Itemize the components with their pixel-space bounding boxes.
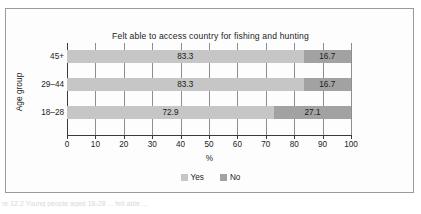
x-tick-label: 0 [52,140,82,149]
bar-value-label: 16.7 [304,78,351,91]
bar-segment-yes: 72.9 [67,106,274,119]
legend-label: Yes [191,173,204,182]
chart-legend: YesNo [6,173,415,182]
bar-segment-yes: 83.3 [67,78,304,91]
x-tick-mark [67,135,68,139]
x-tick-label: 70 [251,140,281,149]
bar-value-label: 83.3 [67,50,304,63]
x-tick-mark [152,135,153,139]
bar-row: 83.316.7 [67,50,351,63]
x-tick-label: 100 [336,140,366,149]
figure-frame: Felt able to access country for fishing … [5,8,414,193]
category-label-2: 18–28 [20,108,64,117]
x-tick-label: 30 [137,140,167,149]
bar-segment-no: 16.7 [304,50,351,63]
x-tick-label: 20 [109,140,139,149]
x-tick-mark [124,135,125,139]
figure-caption: re 12.2 Young people aged 18-28 ... felt… [2,200,302,207]
chart-title: Felt able to access country for fishing … [6,31,415,41]
bar-segment-yes: 83.3 [67,50,304,63]
legend-item-yes: Yes [181,173,204,182]
bar-value-label: 16.7 [304,50,351,63]
x-tick-mark [323,135,324,139]
x-tick-mark [181,135,182,139]
x-tick-label: 50 [194,140,224,149]
category-label-0: 45+ [20,52,64,61]
x-tick-label: 60 [222,140,252,149]
x-tick-mark [351,135,352,139]
legend-swatch-no [220,174,227,181]
x-tick-mark [266,135,267,139]
x-tick-label: 40 [166,140,196,149]
x-tick-mark [209,135,210,139]
plot-area: 83.316.783.316.772.927.1 [67,47,351,131]
bar-value-label: 72.9 [67,106,274,119]
bar-segment-no: 27.1 [274,106,351,119]
x-tick-label: 90 [308,140,338,149]
legend-swatch-yes [181,174,188,181]
legend-label: No [230,173,240,182]
x-tick-mark [237,135,238,139]
bar-row: 83.316.7 [67,78,351,91]
bar-row: 72.927.1 [67,106,351,119]
bar-value-label: 27.1 [274,106,351,119]
x-tick-label: 80 [279,140,309,149]
x-tick-mark [294,135,295,139]
x-axis-title: % [67,154,352,163]
bar-segment-no: 16.7 [304,78,351,91]
legend-item-no: No [220,173,240,182]
bar-value-label: 83.3 [67,78,304,91]
category-label-1: 29–44 [20,80,64,89]
gridline [351,43,352,135]
x-tick-label: 10 [80,140,110,149]
x-tick-mark [95,135,96,139]
